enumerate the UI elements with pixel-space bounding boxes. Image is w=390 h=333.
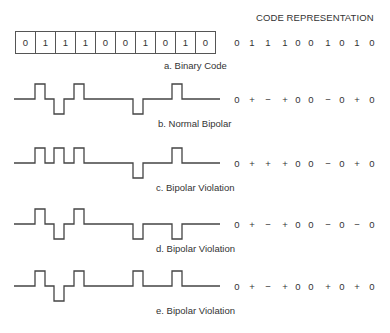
code-symbol: 0 <box>295 94 300 105</box>
code-symbol: 0 <box>369 37 374 48</box>
caption-c: c. Bipolar Violation <box>156 182 235 193</box>
code-symbol: − <box>354 219 360 230</box>
code-symbol: 0 <box>308 281 313 292</box>
code-symbol: 0 <box>369 94 374 105</box>
code-symbol: + <box>265 158 271 169</box>
code-symbol: 0 <box>308 219 313 230</box>
code-symbol: 0 <box>234 37 239 48</box>
code-symbol: + <box>249 219 255 230</box>
code-symbol: − <box>265 219 271 230</box>
code-row-c: 0+++00−0+0 <box>0 158 390 170</box>
code-symbol: 1 <box>325 37 330 48</box>
code-representation-header: CODE REPRESENTATION <box>256 12 374 23</box>
code-symbol: 0 <box>339 94 344 105</box>
code-symbol: + <box>249 158 255 169</box>
code-symbol: + <box>249 94 255 105</box>
code-symbol: + <box>282 158 288 169</box>
code-symbol: + <box>354 281 360 292</box>
code-symbol: 0 <box>339 281 344 292</box>
code-symbol: + <box>282 94 288 105</box>
code-symbol: + <box>354 158 360 169</box>
code-symbol: 0 <box>234 94 239 105</box>
code-symbol: 0 <box>339 158 344 169</box>
code-symbol: − <box>325 94 331 105</box>
code-symbol: 0 <box>295 158 300 169</box>
caption-e: e. Bipolar Violation <box>156 305 235 316</box>
code-symbol: 0 <box>234 158 239 169</box>
code-row-e: 0+−+00+0+0 <box>0 281 390 293</box>
code-symbol: 0 <box>369 281 374 292</box>
code-symbol: + <box>354 94 360 105</box>
code-symbol: 0 <box>295 37 300 48</box>
code-symbol: 0 <box>369 158 374 169</box>
caption-d: d. Bipolar Violation <box>156 243 235 254</box>
code-symbol: + <box>282 219 288 230</box>
code-symbol: 0 <box>339 37 344 48</box>
caption-binary-code: a. Binary Code <box>164 60 227 71</box>
code-symbol: 1 <box>282 37 287 48</box>
code-symbol: − <box>265 94 271 105</box>
code-symbol: 0 <box>308 94 313 105</box>
code-symbol: 1 <box>265 37 270 48</box>
code-symbol: − <box>265 281 271 292</box>
code-symbol: 0 <box>369 219 374 230</box>
code-symbol: − <box>325 219 331 230</box>
code-symbol: 0 <box>234 219 239 230</box>
code-symbol: + <box>282 281 288 292</box>
code-symbol: 0 <box>295 219 300 230</box>
code-symbol: 0 <box>308 158 313 169</box>
code-symbol: 0 <box>308 37 313 48</box>
code-symbol: + <box>249 281 255 292</box>
code-row-binary: 0 1 1 1 0 0 1 0 1 0 <box>0 37 390 49</box>
code-symbol: 0 <box>339 219 344 230</box>
code-symbol: 1 <box>354 37 359 48</box>
caption-b: b. Normal Bipolar <box>158 118 231 129</box>
code-symbol: 0 <box>295 281 300 292</box>
code-symbol: − <box>325 158 331 169</box>
code-symbol: 1 <box>249 37 254 48</box>
code-symbol: 0 <box>234 281 239 292</box>
code-row-d: 0+−+00−0−0 <box>0 219 390 231</box>
code-symbol: + <box>325 281 331 292</box>
code-row-b: 0+−+00−0+0 <box>0 94 390 106</box>
